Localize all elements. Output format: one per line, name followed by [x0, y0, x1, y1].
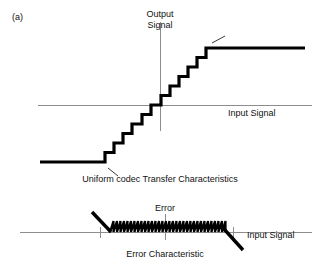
- panel-label: (a): [12, 12, 23, 22]
- figure-panel-a: (a) Output Signal Input Signal Uniform c…: [0, 0, 320, 268]
- top-chart-x-axis-label: Input Signal: [228, 108, 276, 118]
- leader-line-upper-saturation: [212, 36, 225, 43]
- top-chart-caption: Uniform codec Transfer Characteristics: [82, 174, 238, 184]
- overload-error-slope-left: [92, 212, 111, 232]
- bottom-chart-x-axis-label: Input Signal: [247, 230, 295, 240]
- figure-vector-graphics: [0, 0, 320, 268]
- sawtooth-error-waveform: [110, 221, 226, 232]
- bottom-chart-caption: Error Characteristic: [126, 249, 204, 259]
- top-chart-y-axis-label: Output Signal: [146, 9, 173, 31]
- bottom-chart-error-curve: [92, 212, 243, 250]
- bottom-chart-y-axis-label: Error: [155, 203, 175, 213]
